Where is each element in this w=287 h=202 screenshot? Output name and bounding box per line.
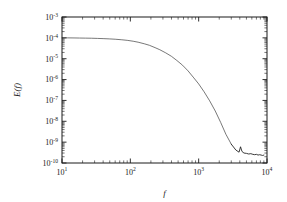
x-tick-labels-group: 101102103104 — [57, 166, 273, 176]
spectrum-log-log-plot: 101102103104 10-310-410-510-610-710-810-… — [0, 0, 287, 202]
y-tick-label: 10-7 — [45, 95, 58, 105]
y-tick-label: 10-3 — [45, 12, 58, 22]
y-axis-title: E(f) — [12, 83, 22, 98]
x-tick-label: 103 — [193, 166, 204, 176]
y-tick-label: 10-4 — [45, 33, 58, 43]
x-tick-label: 102 — [125, 166, 136, 176]
y-tick-label: 10-5 — [45, 53, 58, 63]
x-tick-label: 101 — [57, 166, 68, 176]
y-tick-label: 10-8 — [45, 116, 58, 126]
plot-background — [62, 17, 267, 163]
y-tick-label: 10-6 — [45, 74, 58, 84]
x-axis-title: f — [163, 188, 167, 198]
y-tick-label: 10-10 — [43, 158, 59, 168]
x-tick-label: 104 — [262, 166, 273, 176]
figure-container: 101102103104 10-310-410-510-610-710-810-… — [0, 0, 287, 202]
y-tick-label: 10-9 — [45, 137, 58, 147]
y-tick-labels-group: 10-310-410-510-610-710-810-910-10 — [43, 12, 59, 168]
